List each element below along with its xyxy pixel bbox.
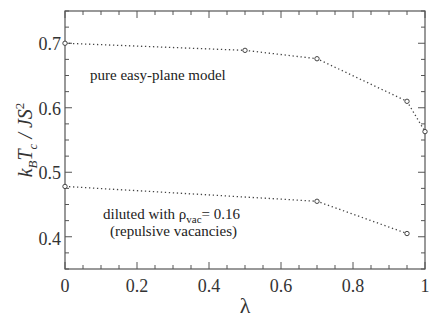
x-tick-1: 1 [421,276,430,296]
x-tick-0: 0 [61,276,70,296]
y-tick-0.4: 0.4 [39,229,62,249]
x-tick-0.6: 0.6 [270,276,293,296]
x-tick-0.4: 0.4 [198,276,221,296]
y-axis-label: kBTc / JS2 [12,103,40,178]
y-tick-labels: 0.4 0.5 0.6 0.7 [39,34,62,249]
data-point [315,199,319,203]
data-point [243,48,247,52]
x-tick-0.2: 0.2 [126,276,149,296]
y-tick-0.6: 0.6 [39,99,62,119]
x-tick-0.8: 0.8 [342,276,365,296]
data-point [63,184,67,188]
annotation-pure-model: pure easy-plane model [90,67,226,83]
data-point [405,99,409,103]
data-point [63,41,67,45]
series-line-0 [65,43,425,131]
y-tick-0.7: 0.7 [39,34,62,54]
data-point [315,57,319,61]
x-axis-label: λ [240,293,251,318]
data-point [405,231,409,235]
data-point [423,129,427,133]
annotation-repulsive: (repulsive vacancies) [110,223,237,240]
chart: 0 0.2 0.4 0.6 0.8 1 0.4 0.5 0.6 0.7 λ kB… [0,0,436,318]
y-tick-0.5: 0.5 [39,163,62,183]
svg-text:kBTc / JS2: kBTc / JS2 [12,103,40,178]
